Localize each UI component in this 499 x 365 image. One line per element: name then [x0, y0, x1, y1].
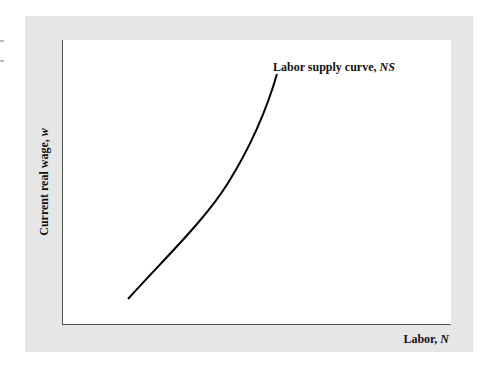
y-axis-label: Current real wage, w: [37, 128, 52, 236]
y-axis-label-text: Current real wage,: [37, 136, 51, 236]
x-axis-label-text: Labor,: [403, 332, 440, 346]
x-axis-label: Labor, N: [403, 332, 449, 347]
y-axis-symbol: w: [37, 128, 51, 136]
curve-label-symbol: NS: [379, 60, 394, 74]
labor-supply-curve: [0, 0, 499, 365]
x-axis-symbol: N: [440, 332, 449, 346]
curve-label: Labor supply curve, NS: [273, 60, 395, 75]
curve-label-text: Labor supply curve,: [273, 60, 379, 74]
